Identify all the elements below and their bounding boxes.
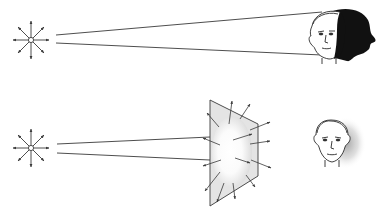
point-light-icon xyxy=(13,21,49,59)
lighting-diagram xyxy=(0,0,383,216)
point-light-icon xyxy=(13,129,49,167)
face-hard-light xyxy=(309,11,345,64)
light-beam xyxy=(56,12,322,55)
light-beam xyxy=(57,137,210,160)
